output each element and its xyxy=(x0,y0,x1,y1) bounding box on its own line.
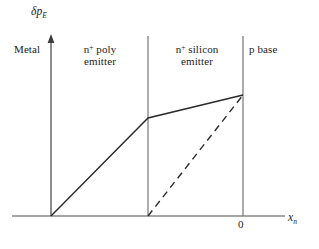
dashed-ideal-profile-curve xyxy=(148,95,243,216)
figure-container: δpE xn 0 Metal n+ poly emitter n+ silico… xyxy=(0,0,319,249)
solid-carrier-profile-curve xyxy=(51,95,243,216)
y-axis-label-subscript: E xyxy=(42,11,47,20)
y-axis-arrowhead-icon xyxy=(48,34,55,43)
region-label-silicon-line2: emitter xyxy=(181,55,213,67)
y-axis-label-symbol: δp xyxy=(31,5,42,17)
region-label-metal: Metal xyxy=(14,43,40,55)
region-label-p-base: p base xyxy=(249,43,277,55)
region-label-silicon-emitter: n+ silicon emitter xyxy=(155,43,239,68)
y-axis-label: δpE xyxy=(31,5,47,20)
diagram-canvas xyxy=(0,0,319,249)
region-label-poly-line1: n+ poly xyxy=(84,43,117,55)
origin-tick-label: 0 xyxy=(238,218,244,230)
region-label-silicon-line1: n+ silicon xyxy=(176,43,219,55)
x-axis-label-subscript: n xyxy=(293,217,297,226)
region-label-poly-emitter: n+ poly emitter xyxy=(62,43,138,68)
region-label-poly-line2: emitter xyxy=(84,55,116,67)
x-axis-label: xn xyxy=(288,211,297,226)
